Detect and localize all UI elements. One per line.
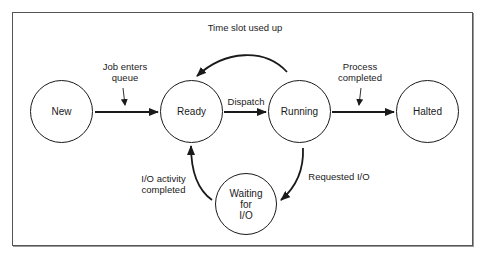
state-new-label: New <box>51 106 71 117</box>
label-dispatch: Dispatch <box>225 96 267 107</box>
label-process-completed: Process completed <box>330 61 390 83</box>
state-halted: Halted <box>396 80 459 143</box>
pointer-job-enters-queue <box>123 88 125 105</box>
state-ready-label: Ready <box>177 106 206 117</box>
arrow-running-to-ready <box>197 55 287 76</box>
state-waiting-label-line3: I/O <box>239 210 252 221</box>
pointer-process-completed <box>359 88 361 105</box>
state-waiting-for-io: Waiting for I/O <box>215 173 277 235</box>
label-requested-io: Requested I/O <box>308 171 370 182</box>
arrow-running-to-waiting <box>281 148 303 200</box>
state-waiting-label-line1: Waiting <box>230 188 263 199</box>
state-ready: Ready <box>160 80 223 143</box>
state-running: Running <box>268 80 331 143</box>
process-state-diagram: New Ready Running Halted Waiting for I/O… <box>0 0 485 258</box>
state-halted-label: Halted <box>413 106 442 117</box>
label-time-slot-used-up: Time slot used up <box>200 22 290 33</box>
label-job-enters-queue: Job enters queue <box>95 61 155 83</box>
label-io-activity-completed: I/O activity completed <box>136 173 191 195</box>
arrow-waiting-to-ready <box>191 146 212 200</box>
state-running-label: Running <box>281 106 318 117</box>
state-new: New <box>30 80 93 143</box>
state-waiting-label-line2: for <box>240 199 252 210</box>
